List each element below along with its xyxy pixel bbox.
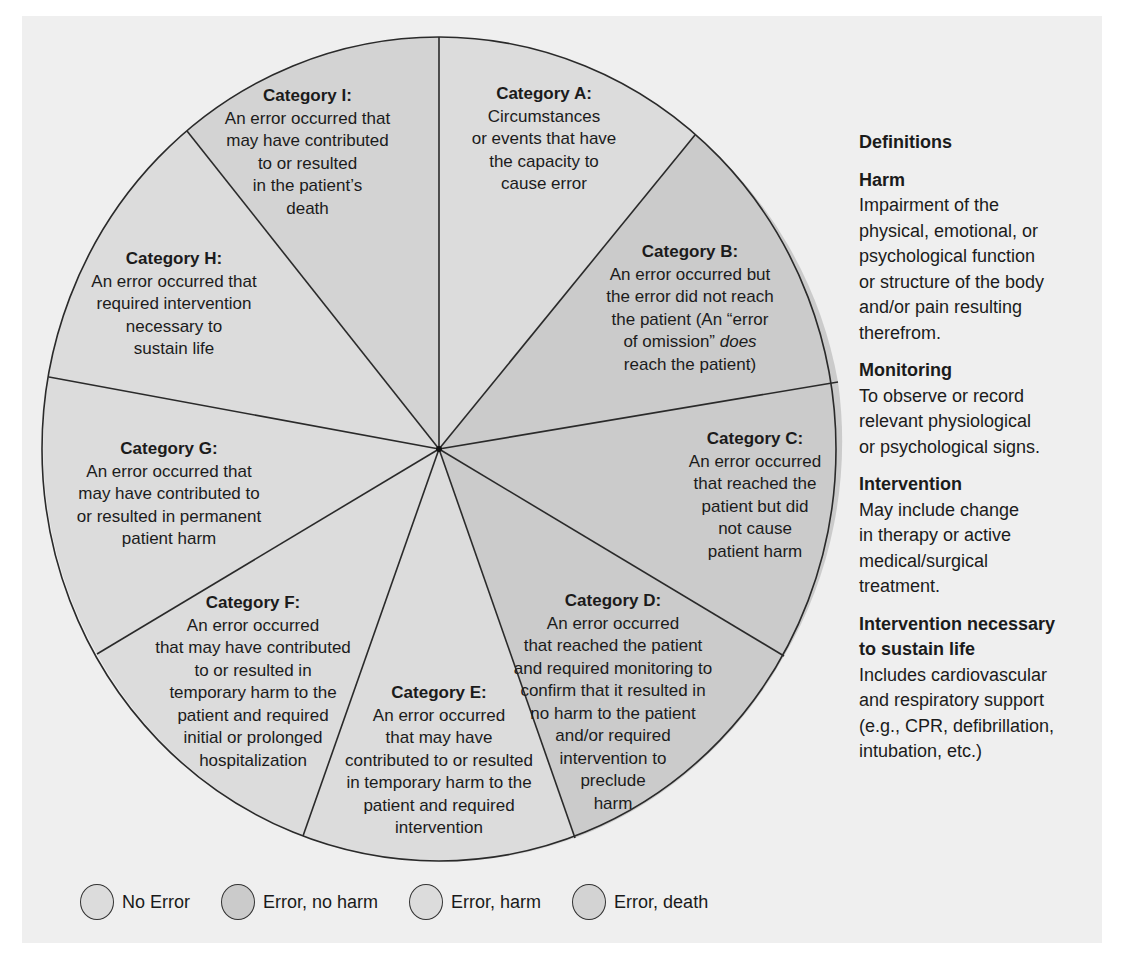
- definition-desc: Includes cardiovascular and respiratory …: [859, 663, 1099, 765]
- definition-intervention-sustain-life: Intervention necessary to sustain life I…: [859, 612, 1099, 765]
- category-i-desc: An error occurred that may have contribu…: [220, 108, 395, 221]
- category-f-label: Category F: An error occurred that may h…: [150, 592, 356, 772]
- category-e-label: Category E: An error occurred that may h…: [336, 682, 542, 840]
- category-e-desc: An error occurred that may have contribu…: [336, 705, 542, 840]
- definitions-panel: Definitions Harm Impairment of the physi…: [859, 130, 1099, 777]
- definition-harm: Harm Impairment of the physical, emotion…: [859, 168, 1099, 347]
- legend: No Error Error, no harm Error, harm Erro…: [80, 884, 739, 920]
- category-f-title: Category F:: [150, 592, 356, 615]
- definition-desc: May include change in therapy or active …: [859, 498, 1099, 600]
- category-b-title: Category B:: [595, 241, 785, 264]
- category-c-label: Category C: An error occurred that reach…: [675, 428, 835, 563]
- definition-desc: Impairment of the physical, emotional, o…: [859, 193, 1099, 346]
- wheel-center-dot: [436, 446, 442, 452]
- legend-label: Error, no harm: [263, 892, 378, 913]
- definition-term: Intervention necessary to sustain life: [859, 612, 1099, 663]
- legend-item-error-death: Error, death: [572, 884, 708, 920]
- category-i-title: Category I:: [220, 85, 395, 108]
- category-a-label: Category A: Circumstances or events that…: [458, 83, 630, 196]
- legend-label: Error, harm: [451, 892, 541, 913]
- category-a-desc: Circumstances or events that have the ca…: [458, 106, 630, 196]
- definition-term: Intervention: [859, 472, 1099, 498]
- definition-monitoring: Monitoring To observe or record relevant…: [859, 358, 1099, 460]
- category-a-title: Category A:: [458, 83, 630, 106]
- legend-swatch-circle-icon: [409, 884, 443, 920]
- category-h-label: Category H: An error occurred that requi…: [84, 248, 264, 361]
- category-b-label: Category B: An error occurred but the er…: [595, 241, 785, 376]
- legend-label: No Error: [122, 892, 190, 913]
- legend-item-error-harm: Error, harm: [409, 884, 541, 920]
- definition-term: Monitoring: [859, 358, 1099, 384]
- category-g-label: Category G: An error occurred that may h…: [65, 438, 273, 551]
- category-g-desc: An error occurred that may have contribu…: [65, 461, 273, 551]
- legend-swatch-circle-icon: [572, 884, 606, 920]
- definition-term: Harm: [859, 168, 1099, 194]
- legend-item-no-error: No Error: [80, 884, 190, 920]
- definition-intervention: Intervention May include change in thera…: [859, 472, 1099, 600]
- definition-desc: To observe or record relevant physiologi…: [859, 384, 1099, 461]
- definitions-heading: Definitions: [859, 130, 1099, 156]
- legend-item-error-no-harm: Error, no harm: [221, 884, 378, 920]
- category-i-label: Category I: An error occurred that may h…: [220, 85, 395, 220]
- category-h-desc: An error occurred that required interven…: [84, 271, 264, 361]
- category-d-title: Category D:: [508, 590, 718, 613]
- category-b-desc: An error occurred but the error did not …: [595, 264, 785, 377]
- legend-label: Error, death: [614, 892, 708, 913]
- category-c-title: Category C:: [675, 428, 835, 451]
- category-c-desc: An error occurred that reached the patie…: [675, 451, 835, 564]
- category-f-desc: An error occurred that may have contribu…: [150, 615, 356, 773]
- legend-swatch-circle-icon: [221, 884, 255, 920]
- category-e-title: Category E:: [336, 682, 542, 705]
- category-g-title: Category G:: [65, 438, 273, 461]
- category-h-title: Category H:: [84, 248, 264, 271]
- legend-swatch-circle-icon: [80, 884, 114, 920]
